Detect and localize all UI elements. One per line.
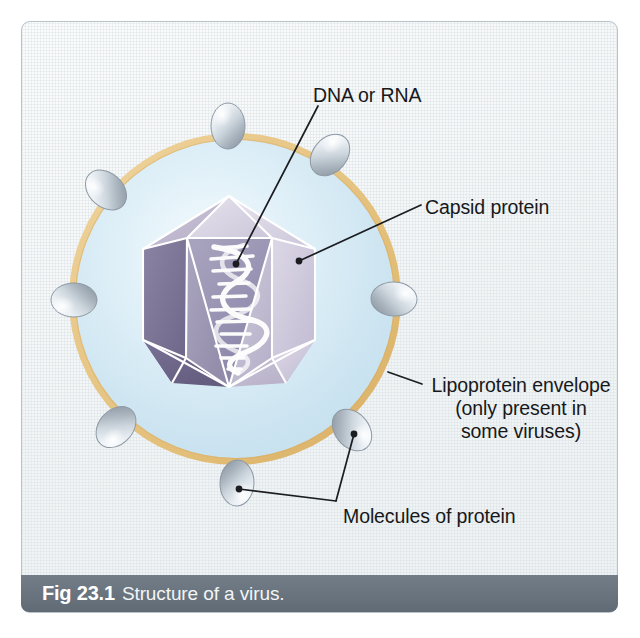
leader-dot-dna bbox=[233, 261, 240, 268]
label-envelope-line3: some viruses) bbox=[461, 420, 581, 442]
capsid-facet-left bbox=[143, 238, 187, 358]
protein-molecule bbox=[219, 459, 255, 506]
leader-line-molecules-left bbox=[239, 489, 336, 501]
figure-root: DNA or RNA Capsid protein Lipoprotein en… bbox=[0, 0, 640, 638]
label-dna-or-rna: DNA or RNA bbox=[313, 84, 421, 107]
leader-dot-molecule-right bbox=[351, 431, 358, 438]
figure-caption-text: Structure of a virus. bbox=[122, 583, 285, 605]
protein-molecule bbox=[211, 103, 245, 149]
figure-caption-number: Fig 23.1 bbox=[42, 582, 115, 605]
label-lipoprotein-envelope: Lipoprotein envelope(only present insome… bbox=[421, 374, 621, 443]
leader-dot-molecule-left bbox=[236, 486, 243, 493]
figure-caption-bar: Fig 23.1 Structure of a virus. bbox=[21, 575, 618, 612]
label-molecules-of-protein: Molecules of protein bbox=[343, 505, 516, 528]
leader-dot-capsid bbox=[296, 258, 303, 265]
label-capsid-protein: Capsid protein bbox=[425, 196, 549, 219]
protein-molecule bbox=[51, 283, 97, 317]
label-envelope-line2: (only present in bbox=[455, 397, 587, 419]
label-envelope-line1: Lipoprotein envelope bbox=[431, 374, 610, 396]
leader-line-envelope bbox=[388, 372, 422, 384]
